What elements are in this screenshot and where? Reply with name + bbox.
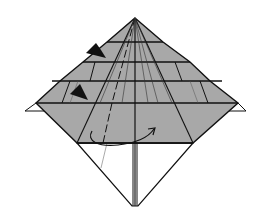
origami-diagram: Origami fold diagram	[0, 0, 271, 222]
diagram-canvas	[0, 0, 271, 222]
